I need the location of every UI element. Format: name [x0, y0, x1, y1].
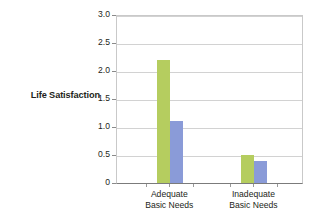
- x-axis-tick-mark: [277, 184, 278, 187]
- bar-low-autonomy: [170, 121, 183, 183]
- y-axis-tick-label: 1.5: [84, 94, 110, 103]
- x-axis-tick-mark: [193, 184, 194, 187]
- x-axis-tick-mark: [253, 184, 254, 187]
- bar-chart-figure: Life Satisfaction 3.02.52.01.51.00.50 Hi…: [0, 0, 311, 222]
- x-axis-tick-mark: [230, 184, 231, 187]
- y-axis-tick-label: 0: [84, 178, 110, 187]
- x-axis-category-label-line: Inadequate: [208, 189, 298, 200]
- x-axis-tick-mark: [146, 184, 147, 187]
- gridline: [117, 100, 302, 101]
- gridline: [117, 72, 302, 73]
- gridline: [117, 128, 302, 129]
- y-axis-tick-label: 2.5: [84, 38, 110, 47]
- bar-high-autonomy: [241, 155, 254, 183]
- x-axis-category-label: InadequateBasic Needs: [208, 189, 298, 210]
- bar-high-autonomy: [157, 60, 170, 183]
- x-axis-tick-mark: [169, 184, 170, 187]
- y-axis-tick-label: 3.0: [84, 10, 110, 19]
- gridline: [117, 44, 302, 45]
- x-axis-category-label-line: Basic Needs: [124, 200, 214, 211]
- x-axis-category-label-line: Basic Needs: [208, 200, 298, 211]
- plot-area: High Autonomy Low Autonomy: [116, 15, 303, 184]
- y-axis-tick-label: 1.0: [84, 122, 110, 131]
- gridline: [117, 16, 302, 17]
- y-axis-tick-label: 2.0: [84, 66, 110, 75]
- x-axis-category-label-line: Adequate: [124, 189, 214, 200]
- bar-low-autonomy: [254, 161, 267, 183]
- x-axis-category-label: AdequateBasic Needs: [124, 189, 214, 210]
- y-axis-tick-label: 0.5: [84, 150, 110, 159]
- gridline: [117, 156, 302, 157]
